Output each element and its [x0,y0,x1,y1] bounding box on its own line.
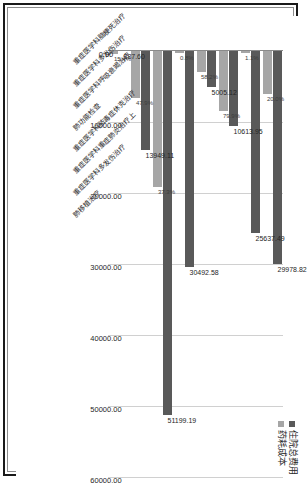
bar-value-label: 10613.95 [233,128,262,135]
bar-row-drug[interactable]: 37.3% [153,51,162,477]
bar-group: 30492.580.8% [174,51,196,477]
value-tick-label: 60000.00 [90,476,121,485]
bar-percent-label: 1.1% [245,55,259,61]
bar-row-drug[interactable]: 1.1% [241,51,250,477]
bar-row-total[interactable]: 30492.58 [185,51,194,477]
chart-area: 住院总费用 药耗成本 29978.8220.0%25637.491.1%1061… [16,16,301,481]
bar-percent-label: 20.0% [267,96,284,102]
bar-drug[interactable] [197,51,206,72]
value-tick-label: 50000.00 [90,405,121,414]
legend-label-total: 住院总费用 [288,430,297,475]
bar-total[interactable] [273,51,282,264]
bar-percent-label: 79.9% [223,113,240,119]
bar-row-drug[interactable]: 0.8% [175,51,184,477]
page-border-inner: 住院总费用 药耗成本 29978.8220.0%25637.491.1%1061… [7,7,294,472]
bar-value-label: 25637.49 [255,235,284,242]
bar-percent-label: 0.8% [180,55,194,61]
bar-value-label: 51199.19 [168,416,197,423]
bar-drug[interactable] [263,51,272,94]
bar-total[interactable] [207,51,216,87]
bar-total[interactable] [163,51,172,415]
bar-group: 25637.491.1% [239,51,261,477]
bar-percent-label: 37.3% [158,189,175,195]
bar-drug[interactable] [241,51,250,53]
bar-row-drug[interactable]: 58.2% [197,51,206,477]
bar-percent-label: 58.2% [201,74,218,80]
bar-percent-label: 47.9% [136,100,153,106]
bar-row-total[interactable]: 13949.11 [141,51,150,477]
bar-row-total[interactable]: 5005.12 [207,51,216,477]
gridline [108,477,283,478]
legend-item-total[interactable]: 住院总费用 [288,421,297,475]
bar-value-label: 29978.82 [277,265,306,272]
bar-total[interactable] [185,51,194,267]
bar-value-label: 5005.12 [211,88,236,95]
value-tick-label: 40000.00 [90,334,121,343]
bar-row-total[interactable]: 25637.49 [251,51,260,477]
rotated-chart-stage: 住院总费用 药耗成本 29978.8220.0%25637.491.1%1061… [16,16,301,481]
bar-drug[interactable] [153,51,162,187]
bar-row-total[interactable]: 51199.19 [163,51,172,477]
legend-swatch-total-icon [290,421,296,427]
bar-value-label: 13949.11 [146,152,175,159]
bar-drug[interactable] [219,51,228,111]
bar-group: 29978.8220.0% [261,51,283,477]
bar-group: 51199.1937.3% [152,51,174,477]
bar-row-drug[interactable]: 79.9% [219,51,228,477]
bar-total[interactable] [251,51,260,233]
bar-group: 5005.1258.2% [196,51,218,477]
bar-value-label: 30492.58 [190,269,219,276]
bar-row-total[interactable]: 29978.82 [273,51,282,477]
value-tick-label: 30000.00 [90,263,121,272]
bar-row-drug[interactable]: 20.0% [263,51,272,477]
bar-drug[interactable] [175,51,184,53]
category-axis-labels: 重症医学科脑梗死治疗重症医学科多发伤治疗重症医学科呼吸衰竭治疗肺功能检查重症医学… [16,50,74,477]
bar-group: 10613.9579.9% [217,51,239,477]
